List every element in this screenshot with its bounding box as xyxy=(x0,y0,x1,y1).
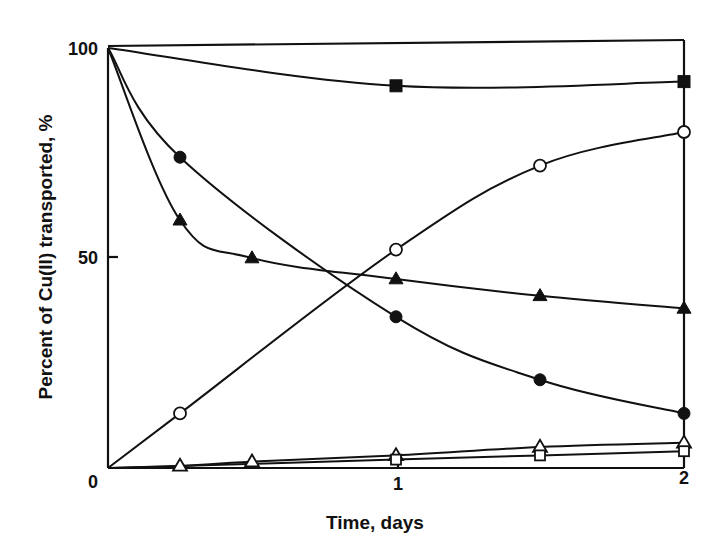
y-axis-title: Percent of Cu(II) transported, % xyxy=(35,114,56,399)
square-open-marker xyxy=(535,450,545,460)
y-tick-0: 0 xyxy=(88,472,98,492)
circle-open-marker xyxy=(678,126,690,138)
x-tick-2: 2 xyxy=(679,468,689,488)
square-filled-marker xyxy=(678,76,690,88)
circle-open-marker xyxy=(390,244,402,256)
series-filled-circle-line xyxy=(108,48,684,413)
triangle-filled-marker xyxy=(173,213,187,225)
y-tick-50: 50 xyxy=(78,248,98,268)
circle-filled-marker xyxy=(534,374,546,386)
circle-filled-marker xyxy=(174,151,186,163)
square-open-marker xyxy=(391,455,401,465)
series-open-circle-line xyxy=(108,132,684,468)
curves xyxy=(108,48,684,468)
circle-open-marker xyxy=(174,407,186,419)
x-axis-title: Time, days xyxy=(326,512,424,533)
markers xyxy=(173,76,691,471)
x-tick-1: 1 xyxy=(393,474,403,494)
circle-open-marker xyxy=(534,160,546,172)
circle-filled-marker xyxy=(678,407,690,419)
square-open-marker xyxy=(679,446,689,456)
square-filled-marker xyxy=(390,80,402,92)
y-tick-100: 100 xyxy=(68,39,98,59)
circle-filled-marker xyxy=(390,311,402,323)
chart: 100 50 0 1 2 Time, days Percent of Cu(II… xyxy=(0,0,723,554)
